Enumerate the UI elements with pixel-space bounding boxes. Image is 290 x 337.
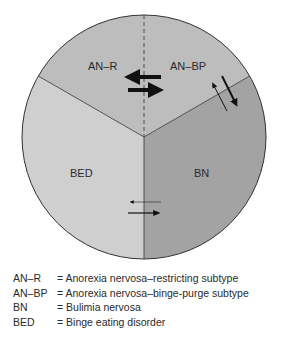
eating-disorder-pie-diagram: AN–R AN–BP BED BN: [0, 0, 290, 270]
legend-abbr: AN–BP: [13, 286, 57, 301]
legend-abbr: BED: [13, 315, 57, 330]
legend-abbr: AN–R: [13, 271, 57, 286]
label-bn: BN: [194, 167, 209, 179]
legend-row-an-r: AN–R = Anorexia nervosa–restricting subt…: [13, 271, 249, 286]
legend-abbr: BN: [13, 300, 57, 315]
legend-row-bed: BED = Binge eating disorder: [13, 315, 249, 330]
label-bed: BED: [70, 167, 93, 179]
label-an-r: AN–R: [88, 60, 117, 72]
legend-row-bn: BN = Bulimia nervosa: [13, 300, 249, 315]
legend-definition: = Binge eating disorder: [57, 315, 165, 330]
legend-definition: = Anorexia nervosa–restricting subtype: [57, 271, 238, 286]
legend-definition: = Bulimia nervosa: [57, 300, 141, 315]
legend-definition: = Anorexia nervosa–binge-purge subtype: [57, 286, 249, 301]
label-an-bp: AN–BP: [170, 60, 206, 72]
legend-row-an-bp: AN–BP = Anorexia nervosa–binge-purge sub…: [13, 286, 249, 301]
legend: AN–R = Anorexia nervosa–restricting subt…: [13, 271, 249, 329]
